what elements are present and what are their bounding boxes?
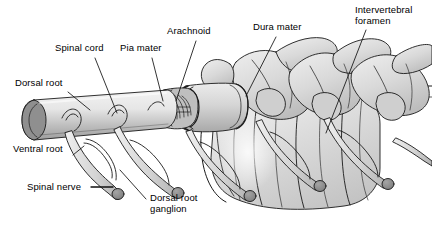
ganglion-3	[244, 191, 256, 202]
label-spinal-nerve: Spinal nerve	[27, 181, 81, 192]
label-ventral-root: Ventral root	[13, 143, 63, 154]
spinal-nerve-2	[114, 127, 184, 199]
nerve-stub-right	[393, 138, 432, 166]
anatomy-figure: Dorsal root Spinal cord Pia mater Arachn…	[0, 0, 432, 238]
spinal-cord-illustration	[0, 0, 432, 238]
label-dura-mater: Dura mater	[253, 21, 302, 32]
label-dorsal-root-ganglion: Dorsal root ganglion	[150, 192, 198, 214]
ganglion-5	[382, 179, 394, 190]
spinal-cord-cylinder	[22, 90, 177, 140]
label-pia-mater: Pia mater	[120, 42, 162, 53]
label-spinal-cord: Spinal cord	[55, 42, 104, 53]
ganglion-1	[112, 189, 124, 200]
label-intervertebral-foramen: Intervertebral foramen	[355, 4, 412, 26]
ganglion-4	[314, 181, 326, 192]
label-arachnoid: Arachnoid	[167, 25, 211, 36]
label-dorsal-root: Dorsal root	[15, 77, 63, 88]
